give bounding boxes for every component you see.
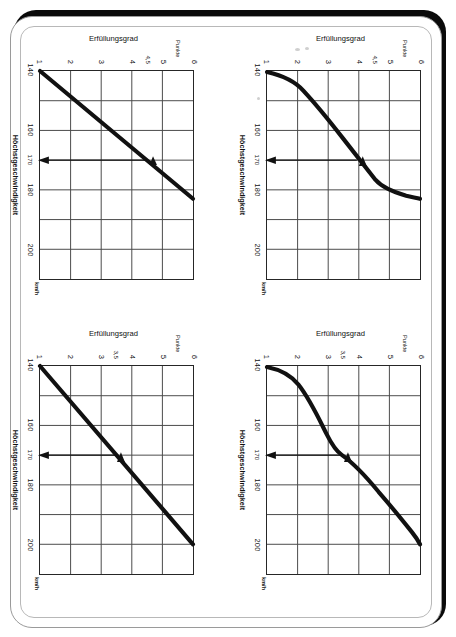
ytick-6: 6 [417,52,426,64]
data-curve-top-left [40,71,193,199]
xtick-140: 140 [26,359,35,372]
plot-svg-top-right [267,71,420,279]
x-unit-label: km/h [34,577,40,590]
plot-svg-top-left [40,71,193,279]
plot-area-top-left [39,70,194,280]
xtick-170: 170 [254,155,261,166]
xtick-180: 180 [253,184,262,197]
ytick-2: 2 [66,347,75,359]
ytick-4: 4 [355,347,364,359]
xtick-170: 170 [254,450,261,461]
chart-top-left-canvas: 140 160 170 180 200 km/h Höchstgeschwind… [4,30,200,292]
chart-bottom-right: 140 160 170 180 200 km/h Höchstgeschwind… [231,325,427,587]
plot-svg-bottom-right [267,366,420,574]
chart-top-left: 140 160 170 180 200 km/h Höchstgeschwind… [4,30,200,292]
xtick-170: 170 [27,155,34,166]
xtick-180: 180 [26,184,35,197]
ytick-annotated-value: 3,5 [340,341,347,359]
xtick-160: 160 [253,124,262,137]
gridlines-horizontal [71,366,163,574]
ytick-4: 4 [128,52,137,64]
screenshot-root: 140 160 170 180 200 km/h Höchstgeschwind… [0,0,456,637]
ytick-annotated-value: 4,5 [145,46,152,64]
y-axis-title: Erfüllungsgrad [316,34,365,43]
gridlines-vertical [267,101,420,250]
x-axis-title: Höchstgeschwindigkeit [238,135,247,215]
xtick-170: 170 [27,450,34,461]
xtick-140: 140 [253,64,262,77]
ytick-5: 5 [159,52,168,64]
ytick-annotated-value: 3,5 [113,341,120,359]
chart-bottom-left-canvas: 140 160 170 180 200 km/h Höchstgeschwind… [4,325,200,587]
ytick-6: 6 [190,52,199,64]
xtick-160: 160 [26,419,35,432]
plot-svg-bottom-left [40,366,193,574]
y-unit-label: Punkte [402,335,408,352]
annotation-arrow-top-right [265,156,367,166]
ytick-6: 6 [417,347,426,359]
y-unit-label: Punkte [402,40,408,57]
ytick-1: 1 [262,347,271,359]
y-axis-title: Erfüllungsgrad [316,329,365,338]
ytick-1: 1 [35,52,44,64]
xtick-160: 160 [26,124,35,137]
x-axis-title: Höchstgeschwindigkeit [11,135,20,215]
plot-area-bottom-right [266,365,421,575]
annotation-arrow-bottom-left [38,451,125,462]
ytick-3: 3 [324,52,333,64]
gridlines-horizontal [71,71,163,279]
gridlines-vertical [267,396,420,545]
ytick-3: 3 [97,52,106,64]
gridlines-vertical [40,101,193,250]
chart-top-right-canvas: 140 160 170 180 200 km/h Höchstgeschwind… [231,30,427,292]
xtick-140: 140 [253,359,262,372]
chart-bottom-left: 140 160 170 180 200 km/h Höchstgeschwind… [4,325,200,587]
ytick-1: 1 [262,52,271,64]
ytick-6: 6 [190,347,199,359]
gridlines-horizontal [298,366,390,574]
chart-top-right: 140 160 170 180 200 km/h Höchstgeschwind… [231,30,427,292]
plot-area-top-right [266,70,421,280]
ytick-4: 4 [355,52,364,64]
ytick-2: 2 [66,52,75,64]
ytick-3: 3 [324,347,333,359]
ytick-5: 5 [159,347,168,359]
ytick-1: 1 [35,347,44,359]
xtick-200: 200 [26,244,35,257]
ytick-3: 3 [97,347,106,359]
y-axis-title: Erfüllungsgrad [89,329,138,338]
xtick-180: 180 [26,479,35,492]
ytick-2: 2 [293,52,302,64]
y-unit-label: Punkte [175,40,181,57]
xtick-140: 140 [26,64,35,77]
x-unit-label: km/h [261,577,267,590]
y-axis-title: Erfüllungsgrad [89,34,138,43]
chart-bottom-right-canvas: 140 160 170 180 200 km/h Höchstgeschwind… [231,325,427,587]
chart-sheet: 140 160 170 180 200 km/h Höchstgeschwind… [0,0,456,637]
x-axis-title: Höchstgeschwindigkeit [238,430,247,510]
xtick-160: 160 [253,419,262,432]
xtick-200: 200 [26,539,35,552]
x-unit-label: km/h [34,282,40,295]
xtick-200: 200 [253,539,262,552]
x-axis-title: Höchstgeschwindigkeit [11,430,20,510]
xtick-180: 180 [253,479,262,492]
ytick-2: 2 [293,347,302,359]
gridlines-vertical [40,396,193,545]
ytick-4: 4 [128,347,137,359]
x-unit-label: km/h [261,282,267,295]
plot-area-bottom-left [39,365,194,575]
data-curve-top-right [267,72,420,199]
ytick-annotated-value: 4,5 [372,46,379,64]
ytick-5: 5 [386,347,395,359]
annotation-arrow-top-left [38,156,157,165]
y-unit-label: Punkte [175,335,181,352]
ytick-5: 5 [386,52,395,64]
xtick-200: 200 [253,244,262,257]
